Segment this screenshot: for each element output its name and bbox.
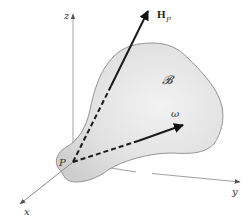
z-axis-label: z [63,10,70,21]
origin-label-p: P [58,157,66,168]
rigid-body-diagram: z x y P 𝓑 H P ω [0,0,248,222]
y-axis-label: y [231,186,238,197]
x-axis-label: x [24,206,30,217]
svg-text:P: P [165,16,171,24]
svg-text:H: H [157,8,166,20]
angular-momentum-label: H P [157,8,171,24]
angular-velocity-label: ω [171,108,179,119]
x-axis [20,162,73,204]
rigid-body-shape [56,43,223,182]
